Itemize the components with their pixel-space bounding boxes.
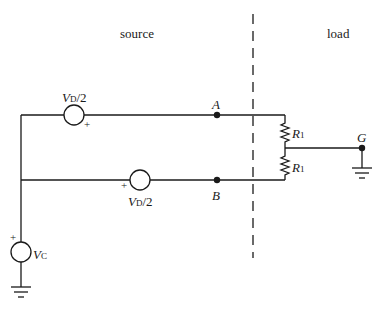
- node-g-dot: [359, 145, 365, 151]
- node-a-dot: [214, 112, 220, 118]
- common-source-polarity: +: [10, 232, 16, 243]
- node-b-label: B: [212, 189, 220, 202]
- top-voltage-source-icon: [64, 105, 84, 125]
- common-source-label: VC: [33, 246, 47, 262]
- bottom-voltage-source-icon: [130, 170, 150, 190]
- top-source-polarity: +: [84, 119, 90, 130]
- g-ground-icon: [352, 168, 372, 178]
- common-voltage-source-icon: [11, 242, 31, 262]
- bottom-resistor-icon: [281, 148, 289, 180]
- bottom-resistor-label: R1: [292, 159, 304, 175]
- node-a-label: A: [212, 98, 220, 111]
- bottom-source-polarity: +: [121, 180, 127, 191]
- load-region-label: load: [327, 27, 349, 40]
- bottom-source-label: VD/2: [128, 193, 153, 209]
- node-g-label: G: [357, 131, 366, 144]
- top-resistor-icon: [281, 115, 289, 148]
- source-region-label: source: [120, 27, 154, 40]
- node-b-dot: [214, 177, 220, 183]
- circuit-diagram: [0, 0, 384, 311]
- top-source-label: VD/2: [62, 89, 87, 105]
- vc-ground-icon: [11, 287, 31, 297]
- top-resistor-label: R1: [292, 125, 304, 141]
